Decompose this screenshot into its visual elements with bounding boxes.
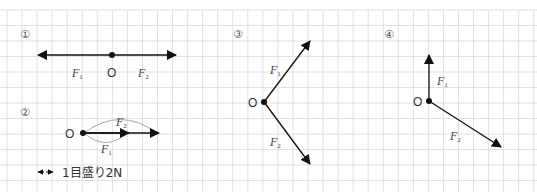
scale-label: 1目盛り2N [62,165,122,180]
force-label-f2: F2 [137,66,149,81]
figure-number: ③ [233,28,243,41]
scale-legend: 1目盛り2N [38,165,122,180]
force-arrow-f2 [429,101,501,147]
figure-3: ③ O F1 F2 [233,28,310,164]
figure-1: ① O F1 F2 [20,28,176,81]
force-label-f2: F2 [449,129,461,144]
origin-point [261,99,267,105]
grid-paper [0,10,537,192]
force-diagram: ① O F1 F2 ② O F2 F1 1目盛り2N ③ O F1 F2 ④ [0,0,537,192]
force-arrow-f2 [264,102,310,164]
force-label-f2: F2 [269,135,281,150]
origin-label: O [248,96,257,110]
origin-point [109,52,115,58]
force-label-f1: F1 [269,63,281,78]
force-label-f2: F2 [115,115,127,130]
origin-label: O [65,127,74,141]
force-label-f1: F1 [71,66,83,81]
origin-label: O [413,95,422,109]
origin-point [80,130,86,136]
figure-number: ① [20,28,30,41]
force-label-f1: F1 [100,142,112,157]
origin-point [426,98,432,104]
origin-label: O [107,66,116,80]
figure-number: ④ [384,28,394,41]
figure-number: ② [20,106,30,119]
force-label-f1: F1 [436,74,448,89]
